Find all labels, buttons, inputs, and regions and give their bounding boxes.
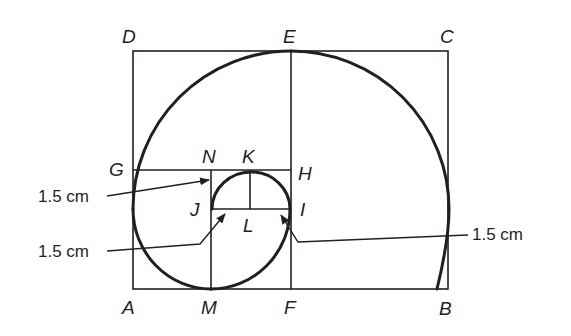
- dimension-label-lower-left: 1.5 cm: [38, 242, 89, 261]
- leader-right: [281, 215, 468, 242]
- spiral-arc-outer-left: [133, 51, 291, 209]
- label-H: H: [298, 163, 312, 184]
- label-E: E: [283, 26, 296, 47]
- spiral-arc-mid: [133, 209, 211, 289]
- label-M: M: [201, 297, 217, 318]
- spiral-arc-small: [212, 172, 290, 209]
- label-I: I: [300, 199, 306, 220]
- label-C: C: [440, 26, 454, 47]
- spiral-arc-outer-right: [291, 51, 449, 289]
- leader-lower-left: [107, 214, 225, 251]
- spiral-diagram: D E C G N K H J I L A M F B 1.5 cm 1.5 c…: [0, 0, 571, 336]
- label-D: D: [122, 26, 136, 47]
- label-J: J: [189, 199, 200, 220]
- label-F: F: [284, 297, 297, 318]
- label-B: B: [439, 298, 452, 319]
- leader-upper-left: [107, 180, 209, 196]
- label-A: A: [121, 297, 135, 318]
- label-G: G: [109, 159, 124, 180]
- label-L: L: [243, 215, 254, 236]
- label-N: N: [202, 146, 216, 167]
- label-K: K: [242, 146, 256, 167]
- dimension-label-right: 1.5 cm: [472, 225, 523, 244]
- dimension-label-upper-left: 1.5 cm: [38, 187, 89, 206]
